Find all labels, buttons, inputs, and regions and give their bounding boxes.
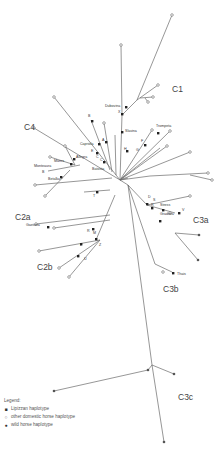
node-label: Z: [99, 243, 102, 247]
legend-label: wild horse haplotype: [11, 421, 53, 429]
node-label: S: [153, 198, 156, 202]
node-label: V: [182, 208, 185, 212]
node-label: Manrs: [54, 159, 64, 163]
node-label: Slavina: [125, 129, 137, 133]
node-label: Thais: [177, 272, 186, 276]
legend-label: Lipizzan haplotype: [11, 405, 49, 413]
legend-item-wild: ● wild horse haplotype: [4, 421, 75, 429]
node-label: X: [118, 110, 121, 114]
node-label: U: [84, 257, 87, 261]
node-label: Stress: [160, 203, 170, 207]
haplotype-network: DubovinaXSlavinaTrompetaBCapriolaAECCBat…: [0, 0, 220, 452]
open-circle-icon: ○: [4, 413, 8, 421]
clade-label: C1: [172, 84, 183, 94]
node-label: F: [141, 139, 144, 143]
clade-label: C3b: [163, 284, 179, 294]
node-label: Batosta: [92, 167, 104, 171]
node-label: Trompeta: [156, 124, 171, 128]
clade-label: C2a: [15, 212, 31, 222]
legend-item-domestic: ○ other domestic horse haplotype: [4, 413, 75, 421]
node-label: Allegra: [76, 155, 87, 159]
node-label: H: [124, 147, 127, 151]
node-label: E: [91, 149, 94, 153]
node-label: Gaetana: [26, 223, 40, 227]
network-edges: [34, 15, 212, 442]
node-label: L: [80, 243, 82, 247]
node-label: Capriola: [80, 142, 93, 146]
node-label: Gradova: [160, 212, 174, 216]
domestic-nodes: [33, 14, 214, 279]
legend-item-lipizzan: ■ Lipizzan haplotype: [4, 405, 75, 413]
filled-circle-icon: ●: [4, 421, 8, 429]
node-label: R: [87, 229, 90, 233]
clade-label: C2b: [37, 262, 53, 272]
square-icon: ■: [4, 405, 8, 413]
node-label: T: [93, 194, 96, 198]
clade-label: C4: [24, 122, 35, 132]
node-label: M: [93, 231, 96, 235]
node-label: Monteaura: [34, 164, 51, 168]
node-label: B: [88, 114, 91, 118]
node-label: G: [136, 148, 139, 152]
lipizzan-nodes: [47, 106, 180, 274]
legend-label: other domestic horse haplotype: [11, 413, 75, 421]
legend: Legend: ■ Lipizzan haplotype ○ other dom…: [4, 397, 75, 429]
node-label: Dubovina: [105, 104, 120, 108]
node-label: C: [96, 155, 99, 159]
node-label: A: [102, 138, 105, 142]
clade-label: C3c: [178, 392, 194, 402]
node-label: Betalka: [48, 177, 60, 181]
node-label: B: [42, 170, 45, 174]
legend-title: Legend:: [4, 397, 75, 405]
node-label: D: [148, 195, 151, 199]
node-label: C: [100, 158, 103, 162]
clade-labels: C1C4C2aC2bC3aC3bC3c: [15, 84, 209, 402]
node-label: R: [151, 203, 154, 207]
clade-label: C3a: [193, 215, 209, 225]
